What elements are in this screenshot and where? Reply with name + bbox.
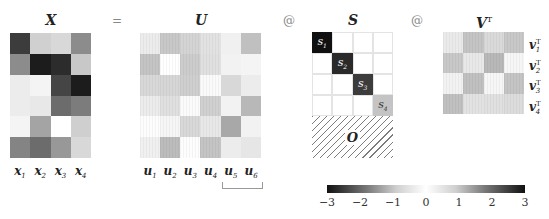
matrix-s-zero-cell — [373, 53, 393, 74]
matrix-u-column-label: u5 — [221, 164, 241, 183]
colorbar-tick-label: 2 — [482, 197, 502, 209]
matrix-u-cell — [180, 54, 200, 75]
matrix-u-cell — [221, 137, 241, 158]
matrix-u-cell — [200, 75, 220, 96]
matrix-u-cell — [160, 137, 180, 158]
matrix-vt-row-label: vT4 — [529, 97, 540, 119]
matrix-u-column-label: u3 — [180, 164, 200, 183]
matrix-x-cell — [71, 75, 91, 96]
matrix-vt-cell — [484, 73, 504, 94]
matrix-x-column-label: x4 — [71, 164, 91, 183]
zero-block: O — [312, 116, 393, 158]
matrix-x-heatmap — [10, 33, 91, 158]
matrix-u-cell — [200, 54, 220, 75]
matrix-vt-row-label: vT3 — [529, 76, 540, 98]
matrix-u-cell — [160, 116, 180, 137]
matrix-x-column-label: x3 — [51, 164, 71, 183]
matrix-x-cell — [30, 96, 50, 117]
matrix-vt-cell — [504, 73, 524, 94]
matrix-u-cell — [221, 33, 241, 54]
matrix-s-zero-cell — [353, 53, 373, 74]
singular-value-label: s3 — [358, 77, 367, 91]
matrix-u-cell — [200, 96, 220, 117]
matrix-u-cell — [140, 54, 160, 75]
matrix-u-cell — [180, 75, 200, 96]
matrix-u-cell — [140, 137, 160, 158]
colorbar-tick-label: −2 — [350, 197, 370, 209]
matrix-u-cell — [160, 75, 180, 96]
matrix-u-cell — [200, 137, 220, 158]
matrix-u-cell — [160, 96, 180, 117]
colorbar-tick-label: 1 — [449, 197, 469, 209]
matrix-u-cell — [180, 33, 200, 54]
matrix-u-heatmap — [140, 33, 261, 158]
matrix-u-cell — [241, 96, 261, 117]
equals-operator: = — [107, 14, 127, 28]
matrix-vt-heatmap — [443, 32, 524, 114]
matrix-u-cell — [140, 96, 160, 117]
colorbar-tick-label: 0 — [416, 197, 436, 209]
matrix-vt-title: VT — [464, 12, 504, 31]
matrix-u-title: U — [181, 12, 221, 28]
matrix-x-cell — [51, 75, 71, 96]
matrix-u-cell — [200, 33, 220, 54]
matrix-vt-cell — [463, 94, 483, 115]
matrix-s-zero-cell — [332, 32, 352, 53]
singular-value-cell: s3 — [353, 74, 373, 95]
matrix-x-cell — [30, 54, 50, 75]
matrix-vt-cell — [443, 32, 463, 53]
matrix-vt-row-label: vT2 — [529, 56, 540, 78]
matrix-s-zero-cell — [353, 95, 373, 116]
matrix-x-cell — [30, 75, 50, 96]
matrix-vt-cell — [443, 53, 463, 74]
matrix-x-cell — [51, 33, 71, 54]
matrix-s-zero-cell — [332, 74, 352, 95]
matmul-operator-2: @ — [407, 14, 427, 28]
matrix-s-zero-cell — [353, 32, 373, 53]
matrix-u-cell — [160, 33, 180, 54]
singular-value-cell: s1 — [312, 32, 332, 53]
matrix-x-cell — [10, 33, 30, 54]
matrix-x-column-label: x1 — [10, 164, 30, 183]
colorbar-tick-label: 3 — [515, 197, 535, 209]
matrix-u-cell — [160, 54, 180, 75]
singular-value-cell: s4 — [373, 95, 393, 116]
matrix-u-cell — [221, 54, 241, 75]
matrix-x-cell — [71, 137, 91, 158]
matrix-x-cell — [30, 116, 50, 137]
matrix-u-cell — [221, 96, 241, 117]
matrix-u-cell — [180, 137, 200, 158]
matrix-vt-cell — [443, 73, 463, 94]
matrix-u-column-label: u1 — [140, 164, 160, 183]
matrix-u-cell — [140, 75, 160, 96]
matrix-vt-cell — [443, 94, 463, 115]
matrix-x-title: X — [31, 12, 71, 28]
colorbar — [327, 185, 525, 193]
matrix-x-column-label: x2 — [30, 164, 50, 183]
matrix-u-cell — [241, 116, 261, 137]
matrix-x-cell — [30, 137, 50, 158]
singular-value-label: s1 — [317, 35, 326, 49]
matrix-vt-cell — [504, 94, 524, 115]
matrix-vt-cell — [484, 94, 504, 115]
matrix-s-zero-cell — [312, 53, 332, 74]
matrix-vt-cell — [504, 32, 524, 53]
matrix-u-cell — [221, 116, 241, 137]
matrix-u-cell — [140, 116, 160, 137]
matrix-vt-row-label: vT1 — [529, 35, 540, 57]
matrix-vt-cell — [484, 53, 504, 74]
matrix-s-title: S — [333, 12, 373, 28]
matrix-u-cell — [241, 54, 261, 75]
singular-value-cell: s2 — [332, 53, 352, 74]
vt-title-sup: T — [487, 15, 492, 24]
matrix-u-column-label: u4 — [201, 164, 221, 183]
matrix-s-zero-cell — [373, 74, 393, 95]
matrix-s-heatmap: s1s2s3s4 — [312, 32, 393, 116]
colorbar-tick-label: −1 — [383, 197, 403, 209]
matmul-operator-1: @ — [279, 14, 299, 28]
matrix-x-cell — [10, 75, 30, 96]
matrix-x-cell — [71, 54, 91, 75]
matrix-vt-cell — [504, 53, 524, 74]
matrix-u-column-label: u6 — [241, 164, 261, 183]
matrix-x-cell — [71, 116, 91, 137]
